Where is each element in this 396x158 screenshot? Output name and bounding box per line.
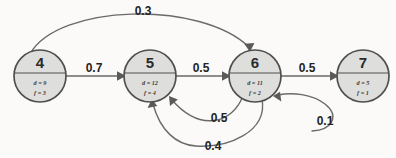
node-6-d-label: d = 11 bbox=[247, 79, 263, 86]
edge-6-to-5-short-path bbox=[172, 96, 243, 121]
edge-4-to-5-label: 0.7 bbox=[86, 61, 103, 75]
node-7-f-label: f = 1 bbox=[357, 89, 369, 96]
node-5-id: 5 bbox=[146, 54, 154, 71]
node-5-d-label: d = 12 bbox=[142, 79, 158, 86]
node-4[interactable]: 4 d = 9 f = 3 bbox=[14, 50, 66, 102]
node-6[interactable]: 6 d = 11 f = 2 bbox=[229, 50, 281, 102]
edge-5-to-6: 0.5 bbox=[176, 61, 231, 81]
edge-4-to-5: 0.7 bbox=[66, 61, 126, 81]
node-6-f-label: f = 2 bbox=[249, 89, 261, 96]
edge-7-to-6-label: 0.1 bbox=[317, 114, 334, 128]
edge-4-to-6: 0.3 bbox=[30, 4, 254, 54]
node-4-f-label: f = 3 bbox=[34, 89, 46, 96]
edge-6-to-5-short-label: 0.5 bbox=[211, 111, 228, 125]
node-6-id: 6 bbox=[251, 54, 259, 71]
edge-4-to-6-label: 0.3 bbox=[135, 4, 152, 18]
edge-6-to-5-long: 0.4 bbox=[148, 99, 263, 153]
edge-6-to-5-short: 0.5 bbox=[169, 96, 243, 125]
node-7[interactable]: 7 d = 5 f = 1 bbox=[337, 50, 389, 102]
node-4-id: 4 bbox=[36, 54, 45, 71]
node-7-id: 7 bbox=[359, 54, 367, 71]
edge-6-to-7: 0.5 bbox=[281, 61, 339, 81]
node-4-d-label: d = 9 bbox=[34, 79, 47, 86]
graph-diagram-canvas: 0.3 0.7 0.5 0.5 0.5 bbox=[0, 0, 396, 158]
edge-6-to-5-long-label: 0.4 bbox=[205, 139, 222, 153]
edge-5-to-6-label: 0.5 bbox=[193, 61, 210, 75]
edge-7-to-6: 0.1 bbox=[273, 92, 334, 131]
edge-4-to-6-path bbox=[30, 14, 249, 54]
node-5-f-label: f = 4 bbox=[144, 89, 156, 96]
edge-6-to-7-label: 0.5 bbox=[299, 61, 316, 75]
node-7-d-label: d = 5 bbox=[357, 79, 370, 86]
node-5[interactable]: 5 d = 12 f = 4 bbox=[124, 50, 176, 102]
